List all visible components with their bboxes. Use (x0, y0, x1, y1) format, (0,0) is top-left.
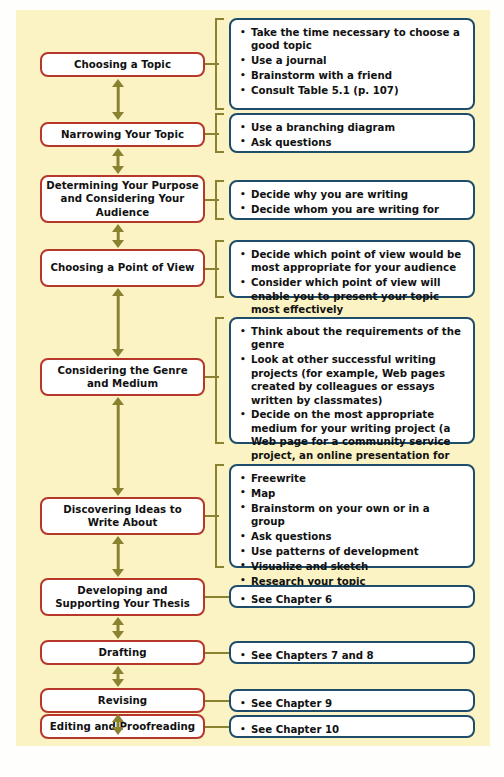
bracket-stub-row-5 (205, 376, 219, 378)
stage-box-revising[interactable]: Revising (40, 688, 205, 713)
arrow-topic-to-narrowing (110, 79, 126, 120)
list-item: Decide why you are writing (239, 188, 465, 201)
arrow-determining-to-pov (110, 224, 126, 248)
flowchart-diagram: Choosing a Topic Narrowing Your Topic De… (0, 0, 504, 777)
detail-list: See Chapter 9 (239, 697, 465, 710)
stage-box-determining-your-purpose[interactable]: Determining Your Purpose and Considering… (40, 175, 205, 223)
list-item: Consider which point of view will enable… (239, 276, 465, 316)
stage-box-narrowing-your-topic[interactable]: Narrowing Your Topic (40, 122, 205, 147)
arrow-drafting-to-revising (110, 666, 126, 687)
bracket-connector-row-5 (215, 317, 224, 444)
list-item: Look at other successful writing project… (239, 353, 465, 407)
line-connector-row-9 (205, 700, 230, 702)
arrowhead-down-icon (112, 488, 124, 496)
bracket-stub-row-2 (205, 133, 219, 135)
list-item: See Chapter 9 (239, 697, 465, 710)
detail-box-determining-your-purpose[interactable]: Decide why you are writing Decide whom y… (229, 180, 475, 220)
stage-box-considering-the-genre[interactable]: Considering the Genre and Medium (40, 358, 205, 396)
detail-box-editing-proofreading[interactable]: See Chapter 10 (229, 715, 475, 738)
detail-box-choosing-a-topic[interactable]: Take the time necessary to choose a good… (229, 18, 475, 110)
arrow-revising-to-editing (110, 714, 126, 735)
list-item: Map (239, 487, 465, 500)
bracket-stub-row-1 (205, 63, 219, 65)
detail-list: Decide why you are writing Decide whom y… (239, 188, 465, 216)
line-connector-row-10 (205, 726, 230, 728)
detail-list: See Chapter 10 (239, 723, 465, 736)
arrow-shaft (117, 85, 120, 114)
arrowhead-down-icon (112, 349, 124, 357)
list-item: Use a branching diagram (239, 121, 465, 134)
stage-box-choosing-a-topic[interactable]: Choosing a Topic (40, 52, 205, 77)
arrowhead-down-icon (112, 112, 124, 120)
list-item: Ask questions (239, 136, 465, 149)
stage-box-choosing-a-point-of-view[interactable]: Choosing a Point of View (40, 249, 205, 287)
list-item: Consult Table 5.1 (p. 107) (239, 84, 465, 97)
detail-list: See Chapter 6 (239, 593, 465, 606)
list-item: Brainstorm on your own or in a group (239, 502, 465, 529)
detail-box-drafting[interactable]: See Chapters 7 and 8 (229, 641, 475, 664)
stage-box-discovering-ideas[interactable]: Discovering Ideas to Write About (40, 497, 205, 535)
arrowhead-down-icon (112, 569, 124, 577)
arrowhead-down-icon (112, 727, 124, 735)
list-item: Think about the requirements of the genr… (239, 325, 465, 352)
arrow-pov-to-genre (110, 288, 126, 357)
detail-list: See Chapters 7 and 8 (239, 649, 465, 662)
bracket-stub-row-4 (205, 268, 219, 270)
list-item: Visualize and sketch (239, 560, 465, 573)
detail-box-choosing-a-point-of-view[interactable]: Decide which point of view would be most… (229, 240, 475, 298)
arrow-thesis-to-drafting (110, 617, 126, 639)
detail-box-discovering-ideas[interactable]: Freewrite Map Brainstorm on your own or … (229, 464, 475, 568)
bracket-stub-row-3 (205, 199, 219, 201)
detail-box-narrowing-your-topic[interactable]: Use a branching diagram Ask questions (229, 113, 475, 153)
list-item: Ask questions (239, 530, 465, 543)
arrowhead-down-icon (112, 240, 124, 248)
detail-box-developing-thesis[interactable]: See Chapter 6 (229, 585, 475, 608)
detail-list: Take the time necessary to choose a good… (239, 26, 465, 98)
list-item: Decide which point of view would be most… (239, 248, 465, 275)
list-item: Take the time necessary to choose a good… (239, 26, 465, 53)
list-item: See Chapters 7 and 8 (239, 649, 465, 662)
list-item: Use a journal (239, 54, 465, 67)
arrow-shaft (117, 403, 120, 490)
list-item: Use patterns of development (239, 545, 465, 558)
detail-box-considering-the-genre[interactable]: Think about the requirements of the genr… (229, 317, 475, 444)
arrow-shaft (117, 542, 120, 571)
arrow-genre-to-discovering (110, 397, 126, 496)
stage-box-developing-thesis[interactable]: Developing and Supporting Your Thesis (40, 578, 205, 616)
list-item: Freewrite (239, 472, 465, 485)
bracket-stub-row-6 (205, 515, 219, 517)
stage-box-drafting[interactable]: Drafting (40, 640, 205, 665)
list-item: Decide whom you are writing for (239, 203, 465, 216)
arrowhead-down-icon (112, 679, 124, 687)
list-item: Brainstorm with a friend (239, 69, 465, 82)
detail-box-revising[interactable]: See Chapter 9 (229, 689, 475, 712)
detail-list: Decide which point of view would be most… (239, 248, 465, 317)
line-connector-row-8 (205, 652, 230, 654)
arrow-narrowing-to-determining (110, 148, 126, 174)
list-item: See Chapter 10 (239, 723, 465, 736)
arrow-shaft (117, 294, 120, 351)
detail-list: Use a branching diagram Ask questions (239, 121, 465, 149)
line-connector-row-7 (205, 596, 230, 598)
arrowhead-down-icon (112, 166, 124, 174)
arrow-discovering-to-thesis (110, 536, 126, 577)
detail-list: Freewrite Map Brainstorm on your own or … (239, 472, 465, 588)
list-item: See Chapter 6 (239, 593, 465, 606)
arrowhead-down-icon (112, 631, 124, 639)
